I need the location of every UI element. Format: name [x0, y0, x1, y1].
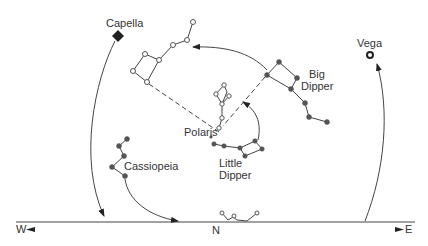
big-dipper-label-line1: Big — [309, 68, 325, 80]
west-arrow-icon — [26, 227, 35, 232]
capella-motion-arc — [91, 41, 115, 216]
filled-star-icon — [112, 30, 124, 42]
cassiopeia: Cassiopeia — [110, 137, 180, 222]
little-dipper-rotated — [214, 83, 231, 130]
north-label: N — [212, 224, 220, 236]
little-dipper-label-line1: Little — [219, 157, 242, 169]
cassiopeia-motion-arc — [125, 179, 178, 221]
vega-motion-arc — [365, 64, 384, 221]
ring-star-icon — [367, 52, 373, 58]
cassiopeia-rotated — [220, 211, 259, 221]
little-dipper-label-line2: Dipper — [219, 169, 252, 181]
horizon: W N E — [16, 222, 415, 236]
west-label: W — [16, 223, 27, 235]
polaris: Polaris — [184, 126, 218, 138]
big-dipper: Big Dipper — [265, 60, 334, 125]
vega: Vega — [357, 37, 384, 221]
polaris-label: Polaris — [184, 126, 218, 138]
east-label: E — [405, 223, 412, 235]
star-chart: W N E Capella Vega — [0, 0, 428, 246]
big-dipper-rotated — [131, 20, 196, 85]
big-dipper-motion-arc — [193, 47, 267, 70]
cassiopeia-label: Cassiopeia — [124, 160, 179, 172]
pointer-line-big-dipper — [223, 77, 265, 126]
capella-label: Capella — [106, 17, 144, 29]
big-dipper-label-line2: Dipper — [301, 80, 334, 92]
little-dipper: Little Dipper — [212, 139, 265, 181]
pointer-line-rotated — [149, 84, 219, 132]
little-dipper-motion-arc — [243, 102, 259, 140]
east-arrow-icon — [395, 227, 404, 232]
polaris-star-icon — [210, 136, 213, 139]
vega-label: Vega — [357, 37, 383, 49]
capella: Capella — [91, 17, 144, 216]
